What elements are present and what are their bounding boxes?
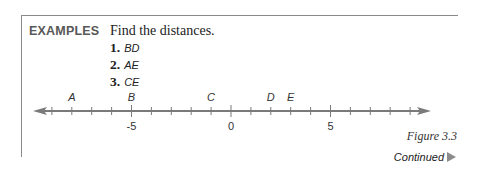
continued-link[interactable]: Continued: [394, 151, 456, 163]
figure-caption: Figure 3.3: [407, 129, 457, 144]
tick-label: -5: [127, 120, 137, 132]
tick-label: 0: [228, 120, 234, 132]
number-line: [0, 0, 483, 171]
point-label-c: C: [207, 91, 215, 103]
point-label-b: B: [128, 91, 135, 103]
point-label-a: A: [68, 91, 75, 103]
tick-label: 5: [327, 120, 333, 132]
point-label-d: D: [267, 91, 275, 103]
continued-label: Continued: [394, 151, 444, 163]
point-label-e: E: [287, 91, 294, 103]
right-arrow-icon: [447, 152, 456, 162]
